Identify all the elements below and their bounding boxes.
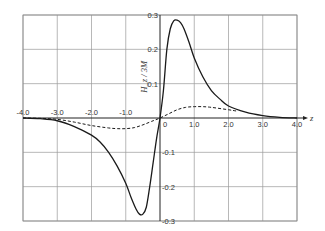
x-axis-arrow-icon — [303, 116, 308, 120]
y-tick-label: 0.3 — [148, 11, 158, 20]
x-tick-label: 0 — [163, 120, 167, 129]
x-tick-label: -4.0 — [17, 108, 30, 117]
y-tick-label: -0.3 — [162, 217, 175, 226]
x-tick-label: -1.0 — [119, 108, 132, 117]
x-axis-title: z — [309, 113, 314, 123]
x-tick-label: -3.0 — [51, 108, 64, 117]
y-tick-label: -0.2 — [162, 183, 175, 192]
x-tick-label: 3.0 — [258, 120, 268, 129]
y-tick-label: 0.1 — [148, 80, 158, 89]
x-tick-label: 4.0 — [292, 120, 302, 129]
chart: -4.0-3.0-2.0-1.001.02.03.04.0 0.30.20.1-… — [0, 0, 325, 231]
x-tick-label: 2.0 — [223, 120, 233, 129]
y-axis-title: H_z / 3M — [139, 60, 149, 94]
x-tick-label: -2.0 — [85, 108, 98, 117]
y-tick-label: 0.2 — [148, 45, 158, 54]
y-tick-label: -0.1 — [162, 148, 175, 157]
x-tick-label: 1.0 — [189, 120, 199, 129]
